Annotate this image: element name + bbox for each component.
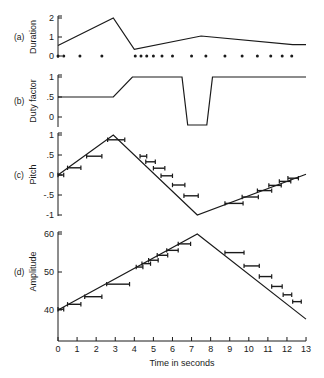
x-tick-label: 0 [55, 344, 60, 354]
figure: 012Duration(a) 0.51Duty factor(b) -1-.50… [0, 0, 324, 378]
data-line [58, 135, 306, 215]
duration-bar [244, 264, 259, 268]
duration-bar [293, 299, 302, 303]
y-tick-label: 50 [44, 267, 54, 277]
duration-bar [87, 154, 102, 158]
x-tick-label: 2 [94, 344, 99, 354]
event-dot [223, 55, 226, 58]
y-tick-label: -1 [46, 210, 54, 220]
duration-bar [68, 302, 81, 306]
x-tick-label: 5 [151, 344, 156, 354]
y-tick-label: 2 [49, 13, 54, 23]
duration-bar [272, 284, 282, 288]
y-tick-label: 0 [49, 170, 54, 180]
y-axis-label: Pitch [28, 164, 38, 184]
y-tick-label: 1 [49, 32, 54, 42]
event-dot [190, 55, 193, 58]
duration-bar [107, 282, 130, 286]
y-axis-label: Duration [28, 20, 38, 54]
event-dot [152, 55, 155, 58]
y-tick-label: -.5 [43, 190, 54, 200]
panel-label: (d) [14, 267, 25, 277]
x-tick-label: 4 [132, 344, 137, 354]
x-tick-label: 1 [75, 344, 80, 354]
event-dot [62, 55, 65, 58]
duration-bar [259, 274, 271, 278]
panel-c-pitch: -1-.50.51Pitch(c) [14, 130, 306, 220]
x-axis-label: Time in seconds [149, 358, 215, 368]
duration-bar [146, 160, 156, 164]
event-dot [269, 55, 272, 58]
duration-bar [140, 154, 147, 158]
x-tick-label: 11 [263, 344, 272, 354]
duration-bar [283, 293, 292, 297]
event-dot [281, 55, 284, 58]
event-dot [160, 55, 163, 58]
y-tick-label: 0 [49, 51, 54, 61]
duration-bar [85, 295, 102, 299]
duration-bar [172, 183, 184, 187]
duration-bar [161, 174, 172, 178]
duration-bar [225, 250, 244, 254]
x-tick-label: 9 [227, 344, 232, 354]
y-axis-label: Duty factor [28, 79, 38, 123]
x-axis: 012345678910111213Time in seconds [55, 337, 311, 368]
panel-label: (c) [14, 170, 24, 180]
panel-d-amplitude: 405060Amplitude(d) [14, 229, 306, 341]
panel-b-duty-factor: 0.51Duty factor(b) [14, 72, 306, 127]
duration-bar [157, 253, 167, 257]
panel-label: (a) [14, 32, 25, 42]
event-dot [171, 55, 174, 58]
duration-bar [153, 166, 164, 170]
event-dot [256, 55, 259, 58]
y-tick-label: 1 [49, 72, 54, 82]
x-tick-label: 13 [301, 344, 311, 354]
y-tick-label: .5 [46, 92, 54, 102]
x-tick-label: 10 [244, 344, 254, 354]
y-tick-label: .5 [46, 150, 54, 160]
event-dot [241, 55, 244, 58]
duration-bar [288, 176, 298, 180]
event-dot [78, 55, 81, 58]
event-dot [57, 55, 60, 58]
duration-bar [184, 194, 198, 198]
x-tick-label: 3 [113, 344, 118, 354]
event-dot [139, 55, 142, 58]
event-dot [100, 55, 103, 58]
duration-bar [178, 242, 190, 246]
y-tick-label: 40 [44, 305, 54, 315]
event-dot [145, 55, 148, 58]
data-line [58, 18, 306, 49]
y-tick-label: 0 [49, 112, 54, 122]
x-tick-label: 12 [282, 344, 292, 354]
panel-a-duration: 012Duration(a) [14, 13, 306, 61]
x-tick-label: 6 [170, 344, 175, 354]
y-tick-label: 1 [49, 130, 54, 140]
y-axis-label: Amplitude [28, 251, 38, 291]
y-tick-label: 60 [44, 229, 54, 239]
x-tick-label: 8 [208, 344, 213, 354]
event-dot [204, 55, 207, 58]
event-dot [290, 55, 293, 58]
event-dot [134, 55, 137, 58]
panel-label: (b) [14, 96, 25, 106]
x-tick-label: 7 [189, 344, 194, 354]
duration-bar [167, 248, 178, 252]
data-line [58, 77, 306, 125]
